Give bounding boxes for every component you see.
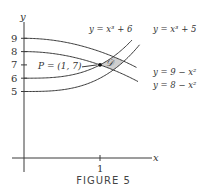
curve-label-x3-plus-5: y = x³ + 5 bbox=[152, 24, 196, 34]
y-tick-label: 6 bbox=[11, 73, 17, 84]
figure-caption: FIGURE 5 bbox=[0, 175, 207, 186]
curve-label-9-minus-x2: y = 9 − x² bbox=[152, 67, 197, 77]
y-axis-label: y bbox=[19, 11, 26, 22]
point-p-marker bbox=[98, 63, 102, 67]
x-axis-label: x bbox=[153, 152, 159, 163]
point-p-label: P = (1, 7) bbox=[37, 61, 82, 71]
curve-label-x3-plus-6: y = x³ + 6 bbox=[88, 24, 133, 34]
y-tick-label: 8 bbox=[11, 46, 17, 57]
point-p-leader bbox=[82, 65, 97, 67]
figure-plot: y x 56789 1 P = (1, 7) 𝒟 y = x³ + 6 y = … bbox=[0, 0, 207, 194]
x-tick-label: 1 bbox=[97, 163, 103, 174]
y-tick-label: 5 bbox=[11, 86, 17, 97]
y-tick-label: 9 bbox=[11, 33, 17, 44]
y-tick-label: 7 bbox=[11, 59, 17, 70]
curve-label-8-minus-x2: y = 8 − x² bbox=[152, 80, 197, 90]
y-ticks: 56789 bbox=[11, 33, 27, 97]
